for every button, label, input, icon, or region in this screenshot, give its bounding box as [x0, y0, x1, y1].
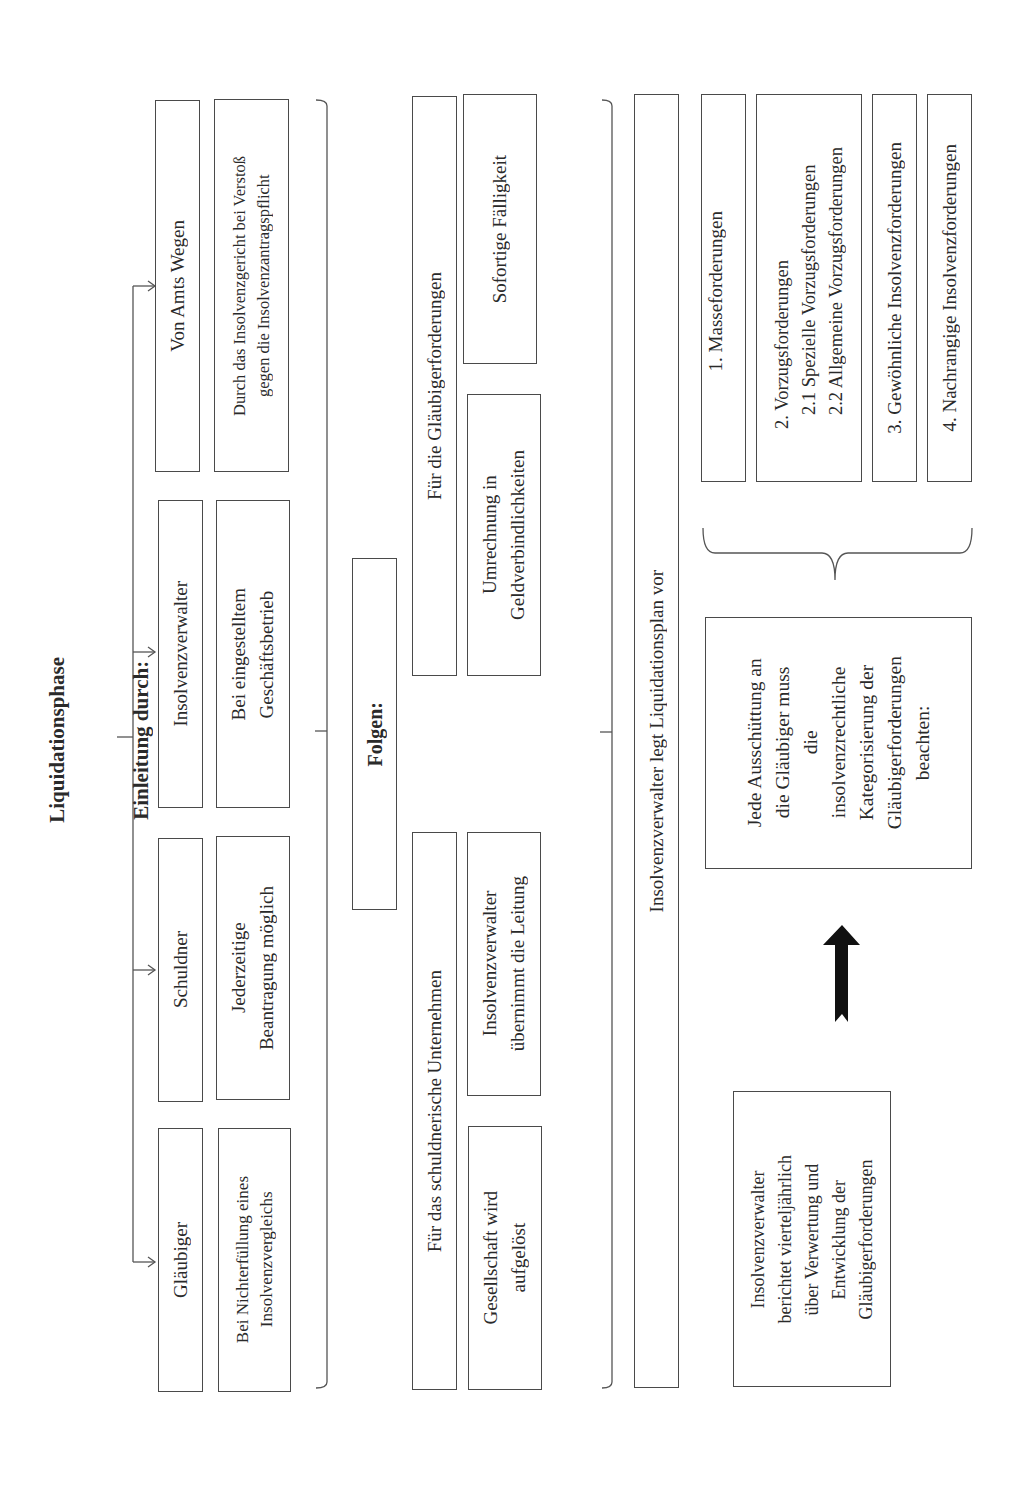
- condition-von-amts-wegen: Durch das Insolvenzgericht bei Verstoß g…: [214, 99, 289, 472]
- consequences-heading: Folgen:: [352, 558, 397, 910]
- initiator-schuldner: Schuldner: [158, 838, 203, 1102]
- consequence-umrechnung: Umrechnung in Geldverbindlichkeiten: [467, 394, 541, 676]
- category-gewoehnliche: 3. Gewöhnliche Insolvenzforderungen: [872, 94, 917, 482]
- category-nachrangige: 4. Nachrangige Insolvenzforderungen: [927, 94, 972, 482]
- arrow-up-icon: [823, 925, 860, 1022]
- distribution-rule-box: Jede Ausschüttung an die Gläubiger muss …: [705, 617, 972, 869]
- liquidation-plan-box: Insolvenzverwalter legt Liquidationsplan…: [634, 94, 679, 1388]
- title-line-1: Liquidationsphase: [45, 657, 69, 823]
- consequence-creditors-label: Für die Gläubigerforderungen: [412, 96, 457, 676]
- diagram-title: Liquidationsphase Einleitung durch:: [55, 635, 115, 845]
- consequence-verwalter-leitung: Insolvenzverwalter übernimmt die Leitung: [467, 832, 541, 1096]
- quarterly-report-box: Insolvenzverwalter berichtet vierteljähr…: [733, 1091, 891, 1387]
- consequence-company-label: Für das schuldnerische Unternehmen: [412, 832, 457, 1390]
- initiator-glaeubiger: Gläubiger: [158, 1128, 203, 1392]
- initiator-von-amts-wegen: Von Amts Wegen: [155, 100, 200, 472]
- consequence-gesellschaft-aufgeloest: Gesellschaft wird aufgelöst: [468, 1126, 542, 1390]
- consequence-faelligkeit: Sofortige Fälligkeit: [463, 94, 537, 364]
- title-line-2: Einleitung durch:: [129, 661, 153, 820]
- condition-insolvenzverwalter: Bei eingestelltem Geschäftsbetrieb: [216, 500, 290, 808]
- condition-glaeubiger: Bei Nichterfüllung eines Insolvenzvergle…: [218, 1128, 291, 1392]
- category-vorzugsforderungen: 2. Vorzugsforderungen 2.1 Spezielle Vorz…: [756, 94, 862, 482]
- category-masseforderungen: 1. Masseforderungen: [701, 94, 746, 482]
- curly-bracket-icon: [600, 100, 612, 1388]
- condition-schuldner: Jederzeitige Beantragung möglich: [216, 836, 290, 1100]
- curly-bracket-icon: [703, 528, 972, 580]
- curly-bracket-icon: [315, 100, 327, 1388]
- initiator-insolvenzverwalter: Insolvenzverwalter: [158, 500, 203, 808]
